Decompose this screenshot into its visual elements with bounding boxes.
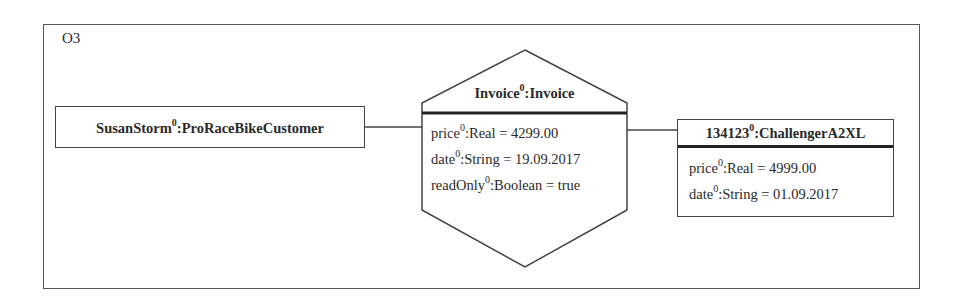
object-attributes: price0:Real = 4999.00 date0:String = 01.… (678, 148, 893, 205)
object-title: SusanStorm0:ProRaceBikeCustomer (96, 118, 324, 137)
attribute-date: date0:String = 19.09.2017 (431, 144, 580, 170)
object-challenger[interactable]: 1341230:ChallengerA2XL price0:Real = 499… (677, 119, 894, 217)
invoice-title: Invoice0:Invoice (422, 83, 627, 102)
object-susanstorm[interactable]: SusanStorm0:ProRaceBikeCustomer (55, 106, 365, 148)
attribute-date: date0:String = 01.09.2017 (689, 179, 893, 205)
invoice-attributes: price0:Real = 4299.00 date0:String = 19.… (431, 118, 580, 195)
attribute-price: price0:Real = 4299.00 (431, 118, 580, 144)
attribute-price: price0:Real = 4999.00 (689, 153, 893, 179)
object-header: 1341230:ChallengerA2XL (678, 120, 893, 148)
attribute-readonly: readOnly0:Boolean = true (431, 170, 580, 196)
object-title: 1341230:ChallengerA2XL (706, 123, 866, 142)
